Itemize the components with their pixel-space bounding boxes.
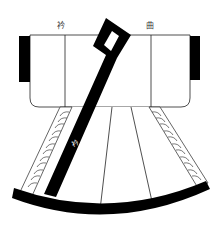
right-sleeve-cuff [190,36,200,80]
robe-diagram [0,0,223,233]
left-sleeve-cuff [19,36,30,82]
label-curved: 曲 [146,22,154,30]
label-collar: 衿 [57,22,65,30]
